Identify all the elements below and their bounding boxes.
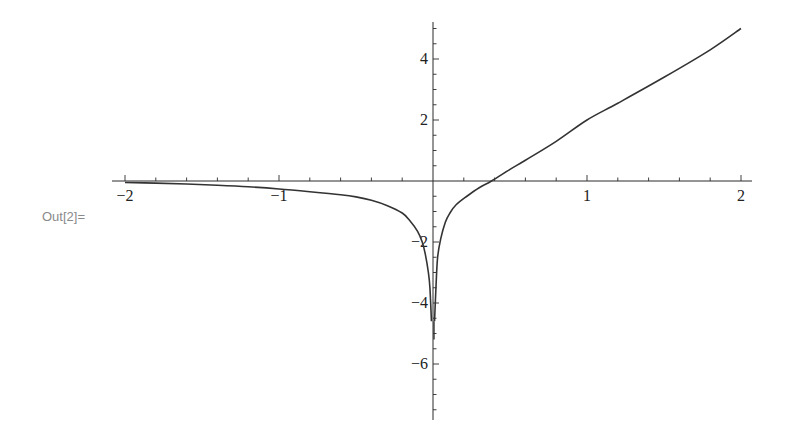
right-branch-curve <box>435 29 741 322</box>
y-tick-label: −6 <box>411 355 428 372</box>
x-tick-label: −2 <box>116 187 133 204</box>
y-tick-label: 2 <box>420 111 428 128</box>
x-tick-label: 2 <box>737 187 745 204</box>
x-tick-label: 1 <box>583 187 591 204</box>
tick-labels: −2−11242−2−4−6 <box>116 50 745 372</box>
y-tick-label: 4 <box>420 50 428 67</box>
function-plot: −2−11242−2−4−6 <box>0 0 788 440</box>
y-tick-label: −4 <box>411 294 428 311</box>
